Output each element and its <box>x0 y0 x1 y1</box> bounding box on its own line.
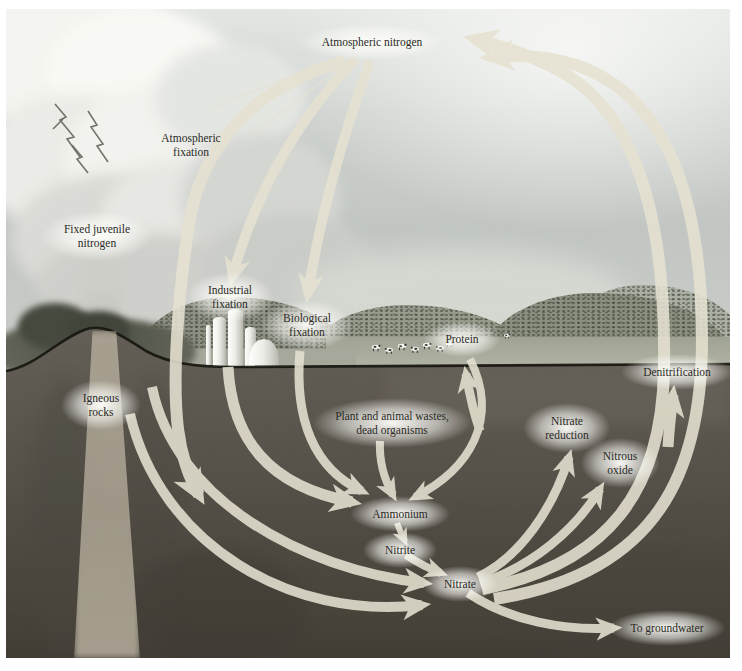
arrow-nitrate-to-groundwater <box>468 593 614 629</box>
arrow-denitrification-inner <box>474 39 664 589</box>
label-ammonium: Ammonium <box>366 505 434 523</box>
arrow-denitrification-outer <box>490 56 702 599</box>
label-atmospheric-fixation: Atmosphericfixation <box>161 131 220 159</box>
flow-arrows <box>6 9 730 658</box>
diagram-scene: Atmospheric nitrogen Atmosphericfixation… <box>6 9 730 658</box>
label-protein: Protein <box>439 330 484 348</box>
label-igneous-rocks: Igneousrocks <box>77 389 125 421</box>
label-plant-animal-wastes: Plant and animal wastes,dead organisms <box>329 407 455 439</box>
arrow-wastes-to-ammonium <box>380 441 393 495</box>
arrow-denitrification-up <box>668 395 673 447</box>
label-fixed-juvenile-nitrogen: Fixed juvenilenitrogen <box>58 220 136 252</box>
label-denitrification: Denitrification <box>637 363 717 381</box>
label-nitrous-oxide: Nitrousoxide <box>597 447 644 479</box>
label-atmospheric-nitrogen: Atmospheric nitrogen <box>316 33 429 51</box>
label-atmospheric-nitrogen-text: Atmospheric nitrogen <box>322 36 423 48</box>
label-biological-fixation: Biologicalfixation <box>277 309 337 341</box>
nitrogen-cycle-figure: Atmospheric nitrogen Atmosphericfixation… <box>0 0 742 671</box>
label-to-groundwater: To groundwater <box>625 619 710 637</box>
label-nitrate: Nitrate <box>438 575 482 593</box>
label-nitrate-reduction: Nitratereduction <box>539 412 594 444</box>
label-industrial-fixation: Industrialfixation <box>202 281 258 313</box>
label-nitrite: Nitrite <box>379 541 421 559</box>
